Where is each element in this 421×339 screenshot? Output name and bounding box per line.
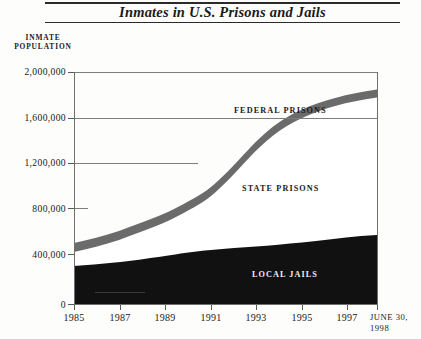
x-tick-1998 [377, 305, 378, 310]
y-tick-label-400000: 400,000 [0, 249, 66, 260]
page-title: Inmates in U.S. Prisons and Jails [45, 3, 400, 22]
chart-page: Inmates in U.S. Prisons and Jails INMATE… [0, 0, 421, 339]
x-tick-1997 [347, 305, 348, 310]
series-label-local-jails: LOCAL JAILS [252, 270, 318, 279]
y-tick-label-2000000: 2,000,000 [0, 66, 66, 77]
y-axis-caption-line2: POPULATION [4, 42, 82, 51]
gridline-2000000 [74, 72, 378, 73]
series-label-state-prisons: STATE PRISONS [242, 184, 319, 193]
x-tick-label-1997: 1997 [329, 312, 365, 323]
x-tick-1989 [165, 305, 166, 310]
x-tick-label-june-30-1998: JUNE 30, 1998 [370, 312, 420, 333]
x-tick-label-1987: 1987 [102, 312, 138, 323]
x-tick-label-1993: 1993 [238, 312, 274, 323]
x-tick-label-1991: 1991 [193, 312, 229, 323]
plot-right-edge [377, 72, 378, 305]
series-label-federal-prisons: FEDERAL PRISONS [234, 106, 327, 115]
scan-artifact-line [95, 292, 145, 293]
x-tick-1991 [211, 305, 212, 310]
gridline-1200000 [74, 163, 198, 164]
x-tick-1987 [120, 305, 121, 310]
stacked-area-series [74, 72, 378, 305]
plot-area: FEDERAL PRISONS STATE PRISONS LOCAL JAIL… [74, 72, 378, 305]
x-tick-label-1989: 1989 [147, 312, 183, 323]
y-tick-label-1200000: 1,200,000 [0, 157, 66, 168]
header-rule-bottom [45, 22, 400, 23]
x-tick-label-1985: 1985 [56, 312, 92, 323]
y-tick-label-0: 0 [0, 299, 66, 310]
gridline-800000 [74, 208, 88, 209]
x-tick-1993 [256, 305, 257, 310]
x-end-label-line1: JUNE 30, [370, 312, 420, 323]
x-tick-1985 [74, 305, 75, 310]
x-tick-label-1995: 1995 [284, 312, 320, 323]
y-axis-line [74, 72, 75, 305]
gridline-1600000 [74, 118, 378, 119]
y-tick-label-1600000: 1,600,000 [0, 112, 66, 123]
x-end-label-line2: 1998 [370, 323, 420, 334]
y-axis-caption: INMATE POPULATION [4, 33, 82, 52]
y-tick-label-800000: 800,000 [0, 203, 66, 214]
x-tick-1995 [302, 305, 303, 310]
y-axis-caption-line1: INMATE [4, 33, 82, 42]
